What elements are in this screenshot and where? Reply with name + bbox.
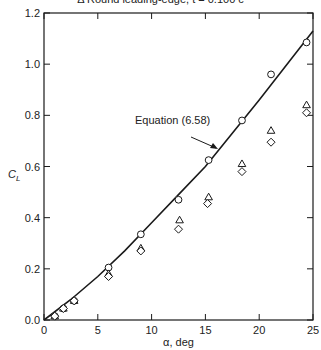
x-axis-title: α, deg [163, 336, 194, 348]
diamond-marker [238, 168, 246, 176]
axis-ticks: 05101520250.00.20.40.60.81.01.2 [25, 7, 319, 336]
y-tick-label: 0.6 [25, 161, 40, 173]
circle-marker [268, 71, 275, 78]
circle-marker [137, 231, 144, 238]
triangle-marker [303, 101, 311, 108]
y-tick-label: 0.0 [25, 314, 40, 326]
equation-label: Equation (6.58) [135, 114, 210, 126]
equation-annotation: Equation (6.58) [135, 114, 218, 149]
triangle-marker [205, 193, 213, 200]
y-axis-title: CL [8, 168, 20, 183]
circle-marker [303, 39, 310, 46]
plot-frame [44, 13, 313, 320]
x-tick-label: 20 [253, 324, 265, 336]
diamond-marker [175, 225, 183, 233]
triangle-marker [176, 216, 184, 223]
triangle-marker [267, 127, 275, 134]
x-tick-label: 25 [307, 324, 319, 336]
x-tick-label: 0 [41, 324, 47, 336]
diamond-marker [105, 273, 113, 281]
circle-marker [175, 196, 182, 203]
y-tick-label: 0.8 [25, 109, 40, 121]
diamond-marker [204, 200, 212, 208]
data-markers [51, 39, 311, 320]
x-tick-label: 5 [95, 324, 101, 336]
triangle-marker [238, 160, 246, 167]
diamond-marker [267, 138, 275, 146]
y-tick-label: 1.0 [25, 58, 40, 70]
x-tick-label: 10 [145, 324, 157, 336]
circle-marker [205, 157, 212, 164]
plot-border [44, 13, 313, 320]
chart-plot: 05101520250.00.20.40.60.81.01.2 Equation… [0, 0, 321, 350]
y-tick-label: 0.2 [25, 263, 40, 275]
x-tick-label: 15 [199, 324, 211, 336]
y-tick-label: 1.2 [25, 7, 40, 19]
y-tick-label: 0.4 [25, 212, 40, 224]
circle-marker [239, 117, 246, 124]
diamond-marker [137, 247, 145, 255]
